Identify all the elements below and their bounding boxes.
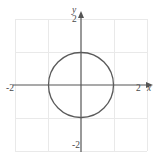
- x-axis-label: x: [147, 84, 151, 94]
- x-axis-max-tick-label: 2: [136, 84, 141, 94]
- y-axis-min-tick-label: -2: [72, 141, 80, 151]
- y-axis-arrowhead: [78, 11, 84, 18]
- plot-svg: [0, 0, 158, 157]
- coordinate-plane-figure: y 2 -2 2 x -2: [0, 0, 158, 157]
- y-axis-max-tick-label: 2: [72, 15, 77, 25]
- x-axis-min-tick-label: -2: [6, 84, 14, 94]
- axes: [13, 14, 150, 152]
